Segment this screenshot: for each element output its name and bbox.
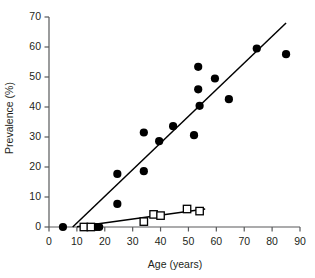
- x-tick-label: 90: [285, 235, 315, 247]
- data-point-filled-circle: [113, 170, 121, 178]
- y-tick-label: 20: [3, 160, 41, 172]
- data-point-open-square: [183, 205, 190, 212]
- data-point-filled-circle: [282, 50, 290, 58]
- x-tick-label: 60: [201, 235, 231, 247]
- data-point-filled-circle: [140, 128, 148, 136]
- x-tick-label: 0: [34, 235, 64, 247]
- data-point-open-square: [196, 207, 203, 214]
- data-point-open-square: [140, 218, 147, 225]
- data-point-filled-circle: [194, 63, 202, 71]
- y-tick-label: 60: [3, 40, 41, 52]
- data-point-filled-circle: [196, 102, 204, 110]
- data-point-open-square: [157, 212, 164, 219]
- data-point-open-square: [150, 211, 157, 218]
- x-axis-title: Age (years): [49, 258, 301, 270]
- data-point-filled-circle: [155, 137, 163, 145]
- data-point-filled-circle: [225, 95, 233, 103]
- x-tick-label: 20: [90, 235, 120, 247]
- y-tick-label: 70: [3, 10, 41, 22]
- y-tick-label: 40: [3, 100, 41, 112]
- data-point-open-square: [87, 223, 94, 230]
- x-tick-label: 40: [146, 235, 176, 247]
- x-tick-label: 80: [257, 235, 287, 247]
- data-point-filled-circle: [194, 85, 202, 93]
- data-point-filled-circle: [169, 122, 177, 130]
- data-point-filled-circle: [190, 131, 198, 139]
- y-tick-label: 50: [3, 70, 41, 82]
- scatter-chart: Prevalence (%) Age (years) 0102030405060…: [0, 0, 315, 278]
- data-point-filled-circle: [113, 200, 121, 208]
- x-tick-label: 50: [173, 235, 203, 247]
- data-point-open-square: [80, 223, 87, 230]
- x-tick-label: 10: [62, 235, 92, 247]
- data-point-filled-circle: [95, 223, 103, 231]
- x-tick-label: 70: [229, 235, 259, 247]
- y-tick-label: 0: [3, 220, 41, 232]
- data-point-filled-circle: [253, 44, 261, 52]
- data-point-filled-circle: [140, 167, 148, 175]
- filled-circles-fit-line: [73, 23, 286, 227]
- y-tick-label: 30: [3, 130, 41, 142]
- data-point-filled-circle: [59, 223, 67, 231]
- y-tick-label: 10: [3, 190, 41, 202]
- x-tick-label: 30: [118, 235, 148, 247]
- data-point-filled-circle: [211, 74, 219, 82]
